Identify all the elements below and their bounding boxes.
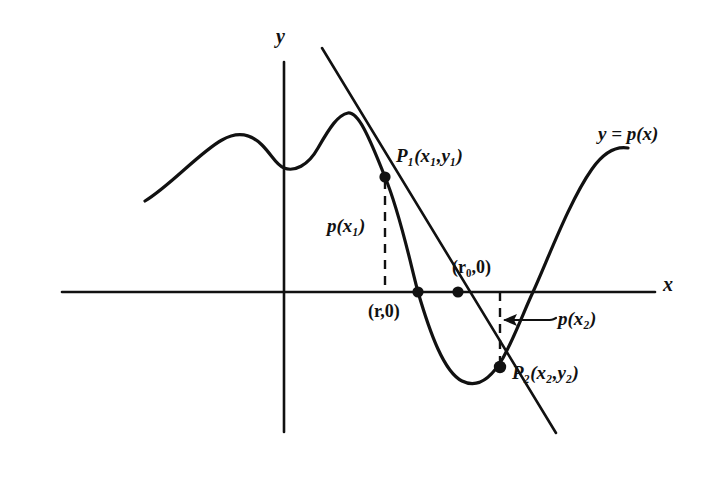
p-x2-leader-tail bbox=[546, 318, 556, 320]
diagram-canvas bbox=[0, 0, 709, 483]
root-label-r0: (r₀,0) bbox=[452, 258, 491, 276]
point-marker-root-r bbox=[412, 286, 423, 297]
secant-method-figure: y x y = p(x) P₁(x₁,y₁) P₂(x₂,y₂) p(x₁) p… bbox=[0, 0, 709, 483]
point-marker-p1 bbox=[379, 171, 390, 182]
x-axis-label: x bbox=[663, 274, 673, 294]
point-label-p2: P₂(x₂,y₂) bbox=[512, 363, 579, 382]
point-label-p1: P₁(x₁,y₁) bbox=[396, 146, 463, 165]
root-label-r: (r,0) bbox=[368, 302, 400, 320]
ordinate-label-p-x1: p(x₁) bbox=[327, 216, 365, 235]
ordinate-label-p-x2: p(x₂) bbox=[558, 309, 596, 328]
y-axis-label: y bbox=[276, 26, 285, 46]
point-marker-p2 bbox=[494, 361, 506, 373]
point-marker-root-r0 bbox=[452, 286, 463, 297]
curve-equation-label: y = p(x) bbox=[598, 124, 658, 143]
